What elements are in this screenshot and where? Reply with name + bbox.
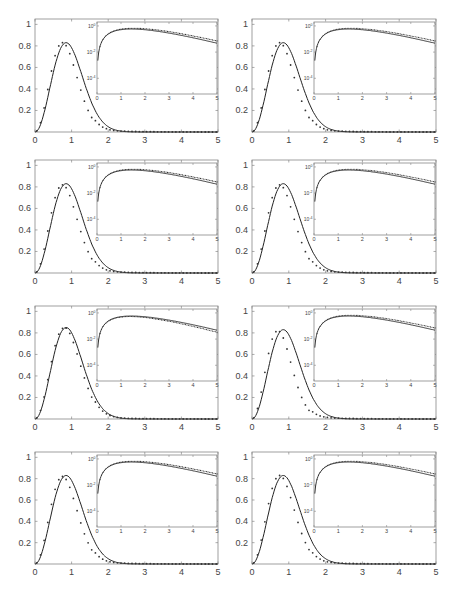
inset-data-point: [339, 169, 340, 170]
data-point: [323, 416, 325, 418]
inset-data-point: [203, 37, 204, 38]
inset-data-point: [153, 318, 154, 319]
data-point: [389, 272, 391, 274]
inset-data-point: [380, 30, 381, 31]
inset-data-point: [120, 29, 121, 30]
data-point: [415, 272, 417, 274]
inset-data-point: [123, 316, 124, 317]
inset-data-point: [350, 28, 351, 29]
x-tick-label: 0: [32, 276, 37, 286]
inset-data-point: [99, 187, 100, 188]
inset-data-point: [188, 175, 189, 176]
inset-data-point: [128, 316, 129, 317]
inset-data-point: [198, 37, 199, 38]
inset-data-point: [371, 316, 372, 317]
data-point: [301, 100, 303, 102]
data-point: [264, 230, 266, 232]
data-point: [87, 542, 89, 544]
inset-data-point: [421, 37, 422, 38]
inset-data-point: [406, 34, 407, 35]
inset-data-point: [189, 468, 190, 469]
x-tick-label: 3: [142, 135, 147, 145]
panel-2: 0123450.20.40.60.8101234510010-210-4: [235, 19, 438, 145]
inset-data-point: [138, 28, 139, 29]
data-point: [264, 521, 266, 523]
inset-data-point: [123, 461, 124, 462]
inset-data-point: [177, 322, 178, 323]
inset-data-point: [210, 330, 211, 331]
inset-data-point: [122, 316, 123, 317]
inset-data-point: [150, 29, 151, 30]
data-point: [84, 533, 86, 535]
inset-x-tick-label: 5: [433, 382, 436, 388]
data-point: [301, 533, 303, 535]
data-point: [149, 418, 151, 420]
inset-data-point: [416, 470, 417, 471]
data-point: [330, 417, 332, 419]
data-point: [80, 89, 82, 91]
inset-data-point: [183, 175, 184, 176]
inset-x-tick-label: 2: [361, 95, 364, 101]
data-point: [260, 391, 262, 393]
data-point: [204, 272, 206, 274]
inset-data-point: [401, 467, 402, 468]
inset-data-point: [357, 461, 358, 462]
inset-data-point: [391, 32, 392, 33]
inset-data-point: [403, 175, 404, 176]
y-tick-label: 0.4: [235, 516, 248, 526]
inset-y-tick-label: 100: [88, 164, 96, 170]
inset-data-point: [134, 461, 135, 462]
y-tick-label: 0.8: [18, 182, 31, 192]
data-point: [69, 53, 71, 55]
inset-data-point: [216, 40, 217, 41]
data-point: [135, 563, 137, 565]
inset-data-point: [391, 319, 392, 320]
inset-data-point: [167, 31, 168, 32]
inset-data-point: [333, 171, 334, 172]
data-point: [146, 563, 148, 565]
inset-data-point: [427, 39, 428, 40]
inset-data-point: [421, 178, 422, 179]
data-point: [323, 560, 325, 562]
data-point: [419, 563, 421, 565]
inset-x-tick-label: 5: [215, 382, 218, 388]
inset-data-point: [330, 31, 331, 32]
data-point: [319, 415, 321, 417]
inset-y-tick-label: 10-4: [304, 362, 313, 368]
inset-data-point: [368, 170, 369, 171]
data-point: [43, 107, 45, 109]
inset-data-point: [321, 178, 322, 179]
inset-data-point: [336, 316, 337, 317]
data-point: [422, 563, 424, 565]
data-point: [268, 503, 270, 505]
data-point: [127, 417, 129, 419]
inset-data-point: [165, 320, 166, 321]
y-tick-label: 0.8: [235, 474, 248, 484]
inset-data-point: [324, 175, 325, 176]
data-point: [433, 131, 435, 133]
data-point: [58, 45, 60, 47]
inset-data-point: [155, 318, 156, 319]
inset-data-point: [143, 317, 144, 318]
data-point: [208, 272, 210, 274]
y-tick-label: 0.6: [18, 203, 31, 213]
inset-x-tick-label: 1: [337, 95, 340, 101]
inset-data-point: [159, 463, 160, 464]
data-point: [160, 131, 162, 133]
inset-data-point: [398, 320, 399, 321]
data-point: [330, 130, 332, 132]
inset-data-point: [197, 327, 198, 328]
x-tick-label: 4: [397, 422, 402, 432]
inset-data-point: [413, 323, 414, 324]
inset-data-point: [102, 39, 103, 40]
inset-data-point: [180, 174, 181, 175]
data-point: [175, 131, 177, 133]
inset-data-point: [431, 181, 432, 182]
data-point: [40, 122, 42, 124]
inset-data-point: [189, 176, 190, 177]
data-point: [397, 131, 399, 133]
data-point: [334, 271, 336, 273]
inset-data-point: [144, 169, 145, 170]
data-point: [327, 561, 329, 563]
inset-data-point: [210, 39, 211, 40]
